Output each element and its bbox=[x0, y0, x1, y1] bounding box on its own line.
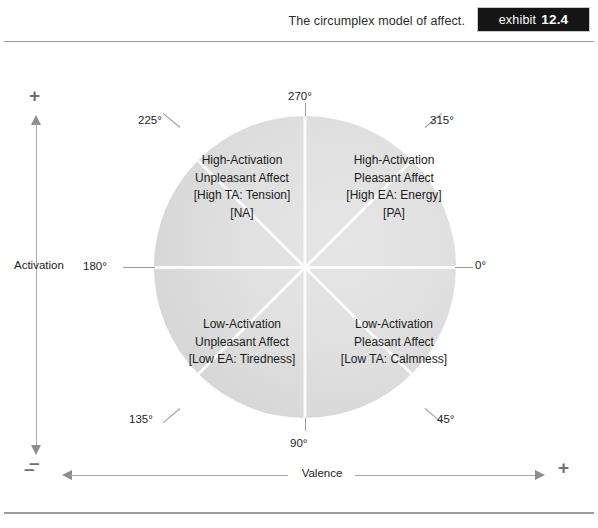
valence-axis-arrow-right bbox=[535, 470, 545, 480]
activation-positive-sign: + bbox=[29, 86, 40, 105]
quadrant-ul-line2: Unpleasant Affect bbox=[166, 170, 318, 188]
degree-label-315: 315° bbox=[430, 114, 454, 126]
quadrant-lr-line1: Low-Activation bbox=[318, 316, 470, 334]
quadrant-ll-line3: [Low EA: Tiredness] bbox=[166, 351, 318, 369]
valence-negative-sign: – bbox=[24, 459, 35, 478]
exhibit-caption: The circumplex model of affect. bbox=[288, 14, 465, 28]
tick-90 bbox=[305, 418, 306, 431]
degree-label-225: 225° bbox=[138, 114, 162, 126]
degree-label-135: 135° bbox=[129, 413, 153, 425]
quadrant-lr-line3: [Low TA: Calmness] bbox=[318, 351, 470, 369]
quadrant-ur-line2: Pleasant Affect bbox=[318, 170, 470, 188]
tick-180 bbox=[123, 267, 155, 268]
degree-label-180: 180° bbox=[83, 260, 107, 272]
degree-label-270: 270° bbox=[288, 90, 312, 102]
activation-axis-label: Activation bbox=[14, 259, 64, 271]
degree-label-45: 45° bbox=[437, 413, 454, 425]
valence-axis-line-right bbox=[355, 475, 537, 476]
quadrant-ur-line4: [PA] bbox=[318, 205, 470, 223]
exhibit-badge-number: 12.4 bbox=[541, 12, 568, 27]
quadrant-ul-line1: High-Activation bbox=[166, 152, 318, 170]
quadrant-high-activation-unpleasant: High-Activation Unpleasant Affect [High … bbox=[166, 152, 318, 222]
exhibit-badge-label: exhibit bbox=[499, 13, 537, 27]
exhibit-header: The circumplex model of affect. exhibit … bbox=[0, 0, 598, 38]
quadrant-ll-line2: Unpleasant Affect bbox=[166, 334, 318, 352]
quadrant-lr-line2: Pleasant Affect bbox=[318, 334, 470, 352]
exhibit-badge: exhibit 12.4 bbox=[477, 7, 590, 32]
quadrant-ur-line3: [High EA: Energy] bbox=[318, 187, 470, 205]
valence-axis-line-left bbox=[70, 475, 288, 476]
tick-0 bbox=[455, 267, 473, 268]
quadrant-ul-line3: [High TA: Tension] bbox=[166, 187, 318, 205]
valence-positive-sign: + bbox=[558, 458, 569, 477]
valence-axis: Valence bbox=[48, 464, 558, 486]
activation-axis-line bbox=[36, 123, 37, 453]
degree-label-90: 90° bbox=[290, 437, 307, 449]
quadrant-low-activation-pleasant: Low-Activation Pleasant Affect [Low TA: … bbox=[318, 316, 470, 369]
quadrant-ul-line4: [NA] bbox=[166, 205, 318, 223]
tick-270 bbox=[305, 103, 306, 116]
quadrant-ur-line1: High-Activation bbox=[318, 152, 470, 170]
quadrant-low-activation-unpleasant: Low-Activation Unpleasant Affect [Low EA… bbox=[166, 316, 318, 369]
quadrant-ll-line1: Low-Activation bbox=[166, 316, 318, 334]
degree-label-0: 0° bbox=[475, 259, 486, 271]
footer-divider bbox=[4, 512, 594, 514]
spoke-180deg bbox=[154, 266, 305, 269]
circumplex-figure: + – Activation – Valence + 270° 315° bbox=[0, 41, 598, 512]
valence-axis-label: Valence bbox=[288, 467, 356, 479]
quadrant-high-activation-pleasant: High-Activation Pleasant Affect [High EA… bbox=[318, 152, 470, 222]
spoke-0deg bbox=[305, 266, 456, 269]
